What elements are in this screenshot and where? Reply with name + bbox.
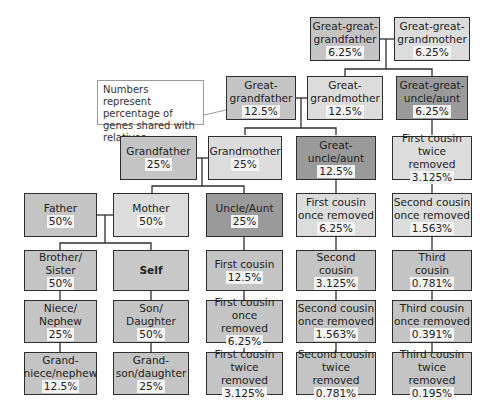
family-tree-diagram: Numbers represent percentage of genes sh…	[0, 0, 496, 414]
node-percent: 6.25%	[326, 46, 364, 59]
node-great-great-grandmother: Great-great- grandmother 6.25%	[394, 17, 470, 61]
node-second-cousin-twice-removed: Second cousin twice removed 0.781%	[296, 352, 376, 395]
node-label: First cousin once removed	[298, 196, 374, 222]
node-second-cousin-once-removed-upper: Second cousin once removed 1.563%	[392, 193, 472, 237]
node-label: Grand- son/daughter	[116, 354, 187, 380]
node-percent: 12.5%	[42, 380, 80, 393]
node-brother-sister: Brother/ Sister 50%	[24, 250, 97, 291]
node-label: Brother/ Sister	[39, 251, 82, 277]
node-second-cousin: Second cousin 3.125%	[296, 250, 376, 291]
node-percent: 0.195%	[410, 387, 454, 400]
connector	[202, 186, 244, 193]
node-third-cousin: Third cousin 0.781%	[392, 250, 472, 291]
node-label: Great-great- grandmother	[397, 20, 467, 46]
node-great-great-grandfather: Great-great- grandfather 6.25%	[310, 17, 380, 61]
node-father: Father 50%	[24, 193, 97, 237]
connector	[386, 69, 432, 76]
node-percent: 0.391%	[410, 328, 454, 341]
node-percent: 0.781%	[410, 277, 454, 290]
node-percent: 12.5%	[242, 105, 280, 118]
node-percent: 25%	[231, 215, 259, 228]
node-label: Grandmother	[209, 145, 280, 158]
node-label: Third cousin once removed	[394, 302, 470, 328]
note-pointer	[204, 110, 226, 115]
node-percent: 6.25%	[317, 222, 355, 235]
node-label: Self	[139, 264, 162, 277]
node-son-daughter: Son/ Daughter 50%	[113, 300, 189, 343]
node-percent: 1.563%	[410, 222, 454, 235]
node-first-cousin-twice-removed-upper: First cousin twice removed 3.125%	[392, 136, 472, 180]
node-label: Great-great- grandfather	[312, 20, 377, 46]
node-percent: 25%	[231, 158, 259, 171]
node-label: Great- grandmother	[310, 79, 380, 105]
node-label: Grand- niece/nephew	[24, 354, 98, 380]
node-percent: 3.125%	[410, 171, 454, 184]
node-label: Mother	[132, 202, 169, 215]
node-first-cousin-twice-removed: First cousin twice removed 3.125%	[206, 352, 283, 395]
node-percent: 12.5%	[326, 105, 364, 118]
node-grandfather: Grandfather 25%	[120, 136, 197, 180]
node-percent: 25%	[47, 328, 75, 341]
node-percent: 3.125%	[314, 277, 358, 290]
node-first-cousin-once-removed-upper: First cousin once removed 6.25%	[296, 193, 376, 237]
node-grandniece-nephew: Grand- niece/nephew 12.5%	[24, 352, 97, 395]
node-percent: 50%	[137, 328, 165, 341]
node-label: Niece/ Nephew	[39, 302, 82, 328]
node-label: First cousin once removed	[207, 296, 282, 335]
node-first-cousin: First cousin 12.5%	[206, 250, 283, 291]
node-third-cousin-once-removed: Third cousin once removed 0.391%	[392, 300, 472, 343]
node-label: Uncle/Aunt	[215, 202, 273, 215]
node-third-cousin-twice-removed: Third cousin twice removed 0.195%	[392, 352, 472, 395]
node-percent: 6.25%	[413, 46, 451, 59]
node-percent: 50%	[47, 215, 75, 228]
node-label: Second cousin once removed	[394, 196, 471, 222]
node-label: Father	[44, 202, 77, 215]
node-label: Second cousin once removed	[298, 302, 375, 328]
node-percent: 6.25%	[226, 335, 264, 348]
connector	[301, 128, 336, 135]
node-percent: 0.781%	[314, 387, 358, 400]
node-percent: 25%	[145, 158, 173, 171]
node-label: Second cousin	[317, 251, 356, 277]
node-label: Second cousin twice removed	[297, 348, 375, 387]
node-uncle-aunt: Uncle/Aunt 25%	[206, 193, 283, 237]
node-self: Self	[113, 250, 189, 291]
node-label: Third cousin	[415, 251, 449, 277]
node-great-grandmother: Great- grandmother 12.5%	[307, 76, 383, 120]
node-great-grandfather: Great- grandfather 12.5%	[226, 76, 296, 120]
node-great-uncle-aunt: Great- uncle/aunt 12.5%	[296, 136, 376, 180]
node-percent: 6.25%	[413, 105, 451, 118]
node-grandmother: Grandmother 25%	[208, 136, 282, 180]
connector	[105, 243, 151, 250]
node-label: First cousin	[215, 258, 275, 271]
node-mother: Mother 50%	[113, 193, 189, 237]
node-grandson-daughter: Grand- son/daughter 25%	[113, 352, 189, 395]
node-second-cousin-once-removed: Second cousin once removed 1.563%	[296, 300, 376, 343]
node-great-great-uncle-aunt: Great-great- uncle/aunt 6.25%	[396, 76, 468, 120]
node-percent: 12.5%	[226, 271, 264, 284]
node-percent: 50%	[137, 215, 165, 228]
node-percent: 12.5%	[317, 165, 355, 178]
node-label: Third cousin twice removed	[393, 348, 471, 387]
node-first-cousin-once-removed: First cousin once removed 6.25%	[206, 300, 283, 343]
node-label: Great-great- uncle/aunt	[399, 79, 464, 105]
node-label: Great- grandfather	[230, 79, 293, 105]
node-niece-nephew: Niece/ Nephew 25%	[24, 300, 97, 343]
node-percent: 1.563%	[314, 328, 358, 341]
node-label: First cousin twice removed	[393, 132, 471, 171]
node-percent: 50%	[47, 277, 75, 290]
legend-note: Numbers represent percentage of genes sh…	[97, 80, 204, 125]
node-percent: 25%	[137, 380, 165, 393]
node-label: Grandfather	[126, 145, 190, 158]
node-percent: 3.125%	[222, 387, 266, 400]
node-label: Great- uncle/aunt	[308, 139, 364, 165]
node-label: Son/ Daughter	[126, 302, 176, 328]
node-label: First cousin twice removed	[207, 348, 282, 387]
